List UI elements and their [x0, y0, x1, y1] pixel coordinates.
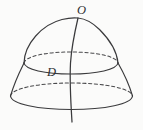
lower-cross-section-back-arc [11, 83, 133, 96]
figure-canvas [0, 0, 143, 130]
lower-side-right [118, 63, 133, 96]
vertex-label-d: D [47, 66, 56, 79]
geometry-figure: O D [0, 0, 143, 130]
vertical-axis [70, 18, 78, 122]
vertex-label-o: O [77, 4, 86, 17]
lower-side-left [11, 63, 25, 96]
